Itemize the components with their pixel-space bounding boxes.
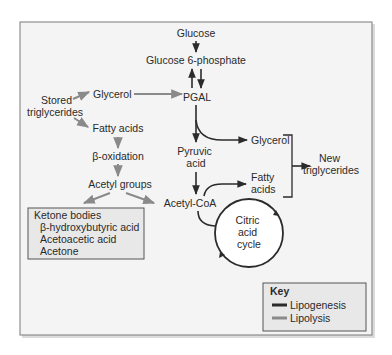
ketone-item: Acetoacetic acid <box>40 233 117 245</box>
node-citric-acid-cycle: Citric acid cycle <box>236 214 263 250</box>
lipid-metabolism-diagram: Glucose Glucose 6-phosphate PGAL Stored … <box>0 0 392 355</box>
node-pgal: PGAL <box>183 91 211 103</box>
node-glycerol-left: Glycerol <box>93 88 132 100</box>
node-glucose: Glucose <box>177 27 216 39</box>
ketone-item: β-hydroxybutyric acid <box>40 221 140 233</box>
ketone-bodies-title: Ketone bodies <box>34 209 101 221</box>
node-glucose-6-phosphate: Glucose 6-phosphate <box>146 54 246 66</box>
node-beta-oxidation: β-oxidation <box>92 150 144 162</box>
key-label-lipogenesis: Lipogenesis <box>290 299 346 311</box>
node-glycerol-right: Glycerol <box>251 134 290 146</box>
node-fatty-acids-right: Fatty acids <box>251 171 277 195</box>
ketone-item: Acetone <box>40 245 79 257</box>
node-fatty-acids-left: Fatty acids <box>93 122 144 134</box>
key-label-lipolysis: Lipolysis <box>290 312 330 324</box>
node-acetyl-coa: Acetyl-CoA <box>164 197 217 209</box>
key-title: Key <box>270 285 289 297</box>
node-acetyl-groups: Acetyl groups <box>88 178 152 190</box>
